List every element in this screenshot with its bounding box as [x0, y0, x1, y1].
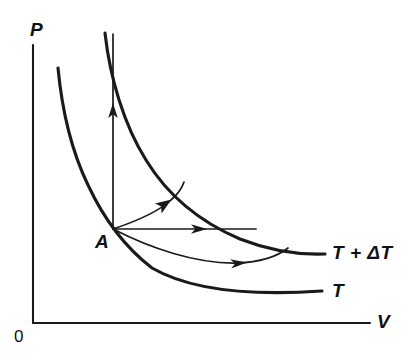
isotherm-cold-curve	[58, 68, 322, 293]
isotherm-group	[58, 33, 325, 293]
process-group	[108, 34, 288, 268]
axes-group	[33, 45, 370, 323]
point-a-label: A	[95, 232, 109, 251]
volume-axis-label: V	[377, 312, 390, 331]
isotherm-hot-curve	[105, 33, 325, 254]
process-intermediate-arrowhead	[155, 200, 172, 214]
isotherm-cold-label: T	[332, 281, 344, 300]
pv-diagram-canvas	[0, 0, 416, 362]
isotherm-hot-label: T + ΔT	[332, 243, 393, 262]
pv-diagram-figure: P V 0 A T + ΔT T	[0, 0, 416, 362]
origin-label: 0	[14, 328, 23, 345]
pressure-axis-label: P	[30, 20, 43, 39]
process-intermediate-curve	[113, 182, 184, 229]
